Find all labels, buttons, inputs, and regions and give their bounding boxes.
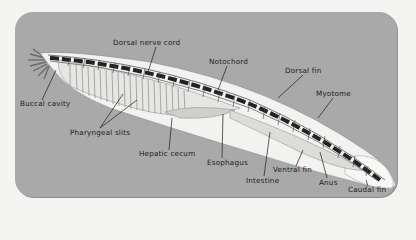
- label-intestine: Intestine: [246, 176, 279, 185]
- label-dorsal-nerve-cord: Dorsal nerve cord: [113, 38, 180, 47]
- label-pharyngeal-slits: Pharyngeal slits: [70, 128, 130, 137]
- label-myotome: Myotome: [316, 89, 351, 98]
- label-caudal-fin: Caudal fin: [348, 185, 386, 194]
- label-esophagus: Esophagus: [207, 158, 248, 167]
- label-dorsal-fin: Dorsal fin: [285, 66, 321, 75]
- label-hepatic-cecum: Hepatic cecum: [139, 149, 195, 158]
- label-notochord: Notochord: [209, 57, 248, 66]
- label-anus: Anus: [319, 178, 338, 187]
- label-buccal-cavity: Buccal cavity: [20, 99, 70, 108]
- label-ventral-fin: Ventral fin: [273, 165, 312, 174]
